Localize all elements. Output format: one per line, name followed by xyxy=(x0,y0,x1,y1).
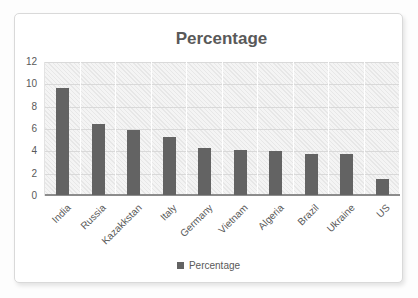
y-axis-tick-label: 10 xyxy=(17,78,37,90)
bar-kazakkstan xyxy=(127,130,140,195)
v-gridline xyxy=(222,62,223,196)
y-axis-tick-label: 2 xyxy=(17,168,37,180)
bar-germany xyxy=(198,148,211,195)
legend: Percentage xyxy=(15,260,402,271)
legend-marker-icon xyxy=(177,262,184,269)
bar-us xyxy=(376,179,389,195)
chart-card: Percentage 024681012 IndiaRussiaKazakkst… xyxy=(14,13,403,283)
v-gridline xyxy=(80,62,81,196)
bar-italy xyxy=(163,137,176,195)
v-gridline xyxy=(115,62,116,196)
y-axis-tick-label: 6 xyxy=(17,123,37,135)
y-axis-tick-label: 0 xyxy=(17,190,37,202)
chart-title: Percentage xyxy=(44,29,399,49)
y-axis-tick-label: 12 xyxy=(17,56,37,68)
bar-ukraine xyxy=(340,154,353,195)
legend-label: Percentage xyxy=(189,260,240,271)
v-gridline xyxy=(186,62,187,196)
y-axis-tick-label: 8 xyxy=(17,101,37,113)
v-gridline xyxy=(151,62,152,196)
bar-india xyxy=(56,88,69,195)
v-gridline xyxy=(257,62,258,196)
plot-area xyxy=(44,62,400,196)
y-axis-tick-label: 4 xyxy=(17,145,37,157)
v-gridline xyxy=(293,62,294,196)
bar-vietnam xyxy=(234,150,247,195)
v-gridline xyxy=(399,62,400,196)
bar-brazil xyxy=(305,154,318,195)
v-gridline xyxy=(328,62,329,196)
bar-russia xyxy=(92,124,105,195)
v-gridline xyxy=(364,62,365,196)
bar-algeria xyxy=(269,151,282,195)
